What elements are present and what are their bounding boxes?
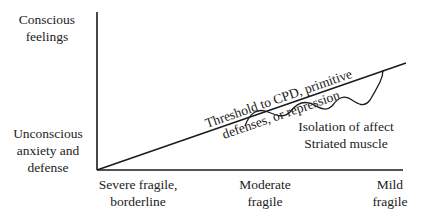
x-label-mild-line1: Mild xyxy=(360,176,420,193)
x-label-severe-line1: Severe fragile, xyxy=(92,176,184,193)
x-label-moderate-line2: fragile xyxy=(225,193,305,210)
wave-annotation-line2: Striated muscle xyxy=(290,135,402,152)
x-label-moderate-line1: Moderate xyxy=(225,176,305,193)
wave-annotation-line1: Isolation of affect xyxy=(290,118,402,135)
x-label-severe-line2: borderline xyxy=(92,193,184,210)
wave-annotation: Isolation of affect Striated muscle xyxy=(290,118,402,152)
x-label-mild: Mild fragile xyxy=(360,176,420,210)
x-label-severe: Severe fragile, borderline xyxy=(92,176,184,210)
x-label-moderate: Moderate fragile xyxy=(225,176,305,210)
x-label-mild-line2: fragile xyxy=(360,193,420,210)
